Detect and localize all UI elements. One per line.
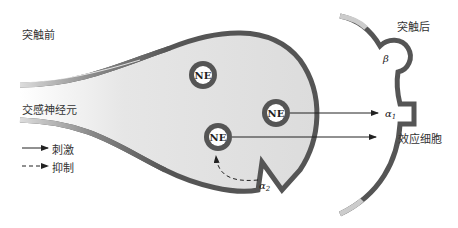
legend-inhibition-label: 抑制 (52, 159, 74, 175)
svg-text:NE: NE (268, 108, 285, 119)
postsynaptic-effector-cell (340, 0, 458, 228)
alpha2-receptor-label: α2 (259, 180, 271, 193)
alpha1-receptor-label: α1 (385, 108, 396, 121)
vesicle-1: NE (189, 61, 217, 89)
presynaptic-label: 突触前 (22, 26, 55, 42)
svg-text:NE: NE (195, 70, 212, 81)
sympathetic-neuron-label: 交感神经元 (22, 101, 77, 117)
postsynaptic-label: 突触后 (397, 18, 430, 34)
svg-text:NE: NE (210, 132, 227, 143)
vesicle-2: NE (262, 99, 290, 127)
beta-receptor-label: β (382, 53, 389, 64)
effector-cell-label: 效应细胞 (398, 130, 442, 146)
vesicle-3: NE (204, 123, 232, 151)
legend-stimulation-label: 刺激 (52, 141, 74, 157)
